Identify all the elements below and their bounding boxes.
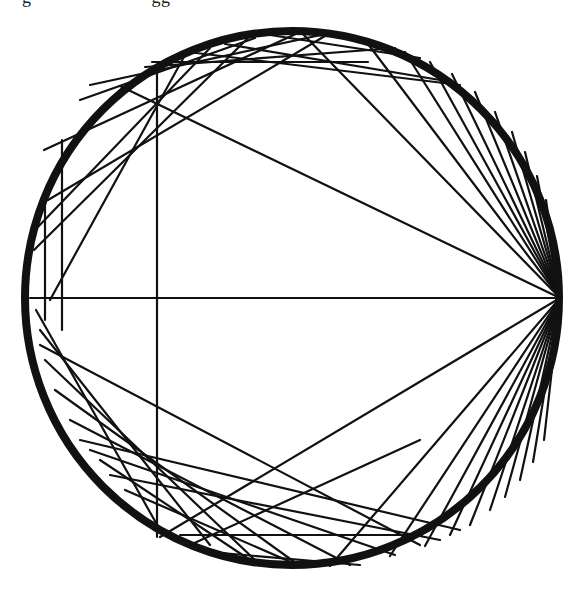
fan-chord-upper <box>475 92 560 298</box>
chord-line <box>48 33 330 200</box>
chord-line <box>90 450 395 555</box>
fan-chord-upper <box>430 62 560 298</box>
fan-chord-lower <box>390 298 560 556</box>
fan-chord-lower <box>490 298 560 510</box>
chord-line <box>35 48 210 230</box>
chord-diagram <box>0 0 583 594</box>
fan-chord-lower <box>160 298 560 537</box>
fan-chord-upper <box>452 74 560 298</box>
fan-chord-upper <box>365 40 560 298</box>
